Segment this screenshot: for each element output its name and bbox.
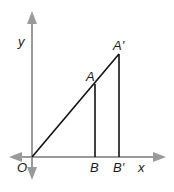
diagram-canvas: y x O A A' B B': [0, 0, 174, 192]
point-label-b: B: [90, 160, 99, 175]
y-axis: [27, 11, 37, 180]
x-axis-right-arrow-icon: [153, 152, 166, 162]
y-axis-up-arrow-icon: [27, 11, 37, 24]
point-label-a: A: [85, 69, 95, 84]
point-label-b-prime: B': [113, 160, 125, 175]
y-axis-down-arrow-icon: [27, 167, 37, 180]
x-axis-label: x: [137, 160, 145, 175]
point-label-a-prime: A': [112, 38, 125, 53]
y-axis-label: y: [17, 34, 26, 49]
segment-o-a-prime: [32, 54, 119, 157]
point-label-o: O: [17, 160, 27, 175]
